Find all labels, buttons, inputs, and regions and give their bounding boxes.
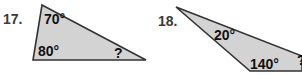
problem-18-bottom-angle: 140° [250, 56, 279, 72]
problem-18-unknown-angle: ? [297, 52, 302, 68]
problem-18-number: 18. [158, 13, 177, 29]
problem-17-bottom-left-angle: 80° [38, 43, 59, 59]
problem-17-unknown-angle: ? [114, 45, 123, 61]
problem-17-number: 17. [3, 11, 22, 27]
problem-17-top-angle: 70° [44, 11, 65, 27]
triangle-18 [176, 7, 302, 71]
problem-18-top-left-angle: 20° [214, 27, 235, 43]
